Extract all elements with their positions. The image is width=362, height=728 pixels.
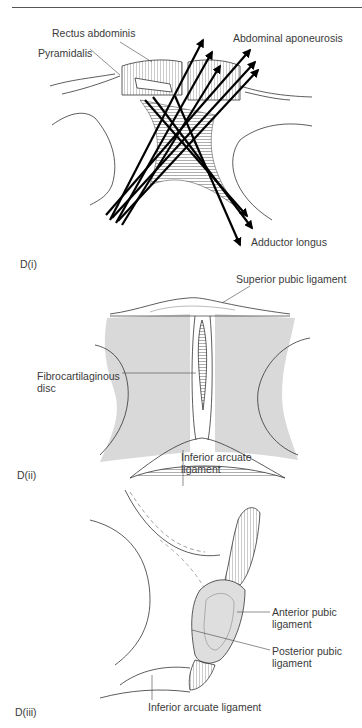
label-superior-pubic-ligament: Superior pubic ligament — [236, 273, 346, 285]
label-fibrocartilaginous-disc-1: Fibrocartilaginous — [37, 370, 120, 382]
panel-d-iii-drawing — [90, 490, 260, 698]
panel-label-d-i: D(i) — [20, 258, 37, 270]
label-posterior-pubic-ligament-2: ligament — [272, 657, 312, 669]
label-pyramidalis: Pyramidalis — [38, 47, 92, 59]
panel-label-d-iii: D(iii) — [15, 706, 37, 718]
label-adductor-longus: Adductor longus — [251, 236, 327, 248]
label-posterior-pubic-ligament-1: Posterior pubic — [272, 645, 342, 657]
label-anterior-pubic-ligament-2: ligament — [272, 618, 312, 630]
label-inferior-arcuate-ligament-2: ligament — [181, 463, 221, 475]
label-inferior-arcuate-ligament-1: Inferior arcuate — [181, 451, 252, 463]
label-fibrocartilaginous-disc-2: disc — [37, 382, 56, 394]
label-abdominal-aponeurosis: Abdominal aponeurosis — [233, 32, 343, 44]
label-rectus-abdominis: Rectus abdominis — [52, 27, 135, 39]
label-anterior-pubic-ligament-1: Anterior pubic — [272, 606, 337, 618]
panel-label-d-ii: D(ii) — [17, 469, 36, 481]
label-inferior-arcuate-ligament: Inferior arcuate ligament — [148, 701, 261, 713]
